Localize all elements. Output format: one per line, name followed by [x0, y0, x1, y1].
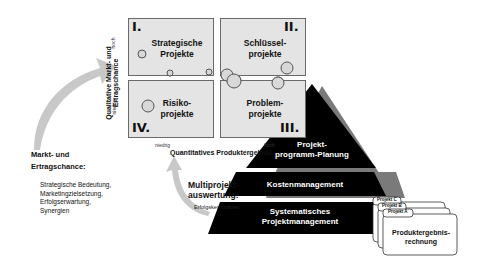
card-tab-b[interactable]: Projekt B — [382, 203, 402, 208]
card-front-label: Produktergebnis- rechnung — [385, 228, 457, 246]
card-tab-a[interactable]: Projekt A — [388, 209, 408, 214]
card-tab-c[interactable]: Projekt C — [377, 197, 397, 202]
